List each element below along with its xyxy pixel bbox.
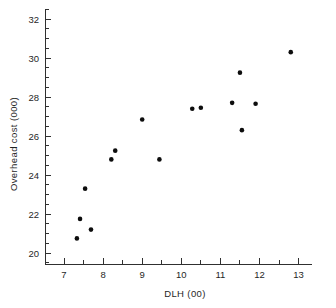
x-axis-tick-labels: 78910111213 <box>61 269 304 280</box>
data-point <box>157 157 162 162</box>
x-tick-label: 8 <box>100 269 105 280</box>
data-point <box>89 227 94 232</box>
y-tick-label: 30 <box>28 53 39 64</box>
scatter-plot-figure: 78910111213 20222426283032 DLH (00) Over… <box>0 0 336 308</box>
data-point <box>199 105 204 110</box>
plot-canvas: 78910111213 20222426283032 DLH (00) Over… <box>0 0 336 308</box>
x-tick-label: 7 <box>61 269 66 280</box>
y-axis-tick-marks <box>45 9 51 263</box>
data-point-series <box>75 50 293 241</box>
y-tick-label: 24 <box>28 170 39 181</box>
data-point <box>113 148 118 153</box>
y-tick-label: 20 <box>28 248 39 259</box>
y-tick-label: 22 <box>28 209 39 220</box>
y-axis-title: Overhead cost (000) <box>8 97 19 191</box>
x-tick-label: 9 <box>140 269 145 280</box>
data-point <box>288 50 293 55</box>
x-tick-label: 13 <box>293 269 304 280</box>
x-axis-title: DLH (00) <box>164 288 206 299</box>
data-point <box>253 102 258 107</box>
data-point <box>240 128 245 133</box>
data-point <box>190 106 195 111</box>
x-axis-tick-marks <box>64 258 299 264</box>
data-point <box>109 157 114 162</box>
y-tick-label: 26 <box>28 131 39 142</box>
data-point <box>83 186 88 191</box>
x-tick-label: 12 <box>254 269 265 280</box>
data-point <box>75 236 80 241</box>
x-tick-label: 11 <box>215 269 225 280</box>
y-axis-tick-labels: 20222426283032 <box>28 14 39 259</box>
y-tick-label: 32 <box>28 14 39 25</box>
data-point <box>140 117 145 122</box>
data-point <box>78 217 83 222</box>
x-tick-label: 10 <box>176 269 187 280</box>
y-tick-label: 28 <box>28 92 39 103</box>
data-point <box>230 101 235 106</box>
data-point <box>238 70 243 75</box>
axis-lines <box>45 9 312 264</box>
